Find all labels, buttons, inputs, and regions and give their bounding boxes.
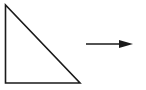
diagram-canvas bbox=[0, 0, 146, 90]
right-arrow-icon bbox=[86, 40, 133, 48]
right-triangle-shape bbox=[6, 5, 81, 83]
